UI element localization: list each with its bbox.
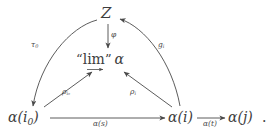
node-alpha-j-label: α(j) [228, 109, 253, 125]
label-rho-i: ρi [130, 88, 136, 96]
node-alpha-i: α(i) [168, 110, 193, 124]
label-alpha-t: α(t) [203, 120, 217, 128]
commutative-diagram: Z “lim”α α(i0) α(i) α(j) . φ τ0 gi ρi₀ ρ… [0, 0, 270, 132]
colimit-functor-label: α [115, 51, 124, 67]
label-alpha-s-text: α(s) [93, 119, 108, 128]
label-alpha-s: α(s) [93, 120, 108, 128]
node-z: Z [101, 6, 111, 21]
label-phi: φ [111, 31, 116, 39]
gi-arrow [120, 19, 180, 106]
node-alpha-j: α(j) [228, 110, 253, 124]
node-alpha-i-label: α(i) [168, 109, 193, 125]
node-alpha-i0: α(i0) [8, 110, 39, 126]
node-alpha-i0-close: ) [33, 109, 38, 125]
trailing-period-label: . [262, 109, 266, 125]
label-rho-i0-subscript: i₀ [66, 90, 70, 96]
label-alpha-t-text: α(t) [203, 119, 217, 128]
colimit-direction-arrow-icon [87, 66, 107, 73]
label-tau0: τ0 [31, 41, 38, 49]
colimit-open-quote: “ [76, 52, 83, 67]
trailing-period: . [262, 110, 266, 124]
label-rho-i0: ρi₀ [62, 88, 70, 96]
label-phi-text: φ [111, 30, 116, 39]
colimit-word-wrapper: lim [83, 52, 105, 67]
colimit-word: lim [83, 51, 105, 67]
label-tau0-subscript: 0 [35, 43, 38, 49]
label-gi: gi [158, 41, 164, 49]
label-gi-subscript: i [163, 43, 165, 49]
node-z-label: Z [101, 4, 111, 22]
label-rho-i-subscript: i [134, 90, 136, 96]
node-colimit: “lim”α [76, 52, 124, 67]
colimit-close-quote: ” [105, 52, 112, 67]
node-alpha-i0-head: α(i [8, 109, 27, 125]
